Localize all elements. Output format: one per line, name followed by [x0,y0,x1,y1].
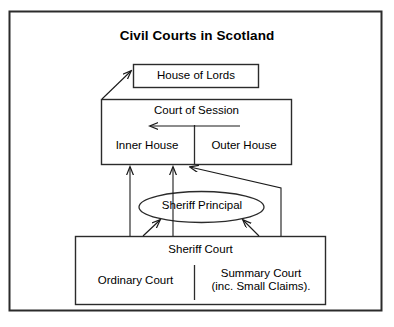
court-of-session-label: Court of Session [101,104,292,117]
summary-court-label-line1: Summary Court [221,267,302,279]
summary-court-label-line2: (inc. Small Claims). [200,280,322,293]
ordinary-court-label: Ordinary Court [79,274,192,287]
diagram-canvas: Civil Courts in Scotland House of Lords … [0,0,394,327]
outer-house-label: Outer House [196,139,292,152]
summary-court-label: Summary Court (inc. Small Claims). [200,267,322,293]
diagram-graphics [0,0,394,327]
sheriff-court-label: Sheriff Court [75,243,326,256]
inner-house-label: Inner House [101,139,193,152]
house-of-lords-label: House of Lords [133,69,259,82]
sheriff-principal-label: Sheriff Principal [139,199,265,212]
diagram-title: Civil Courts in Scotland [0,28,394,43]
